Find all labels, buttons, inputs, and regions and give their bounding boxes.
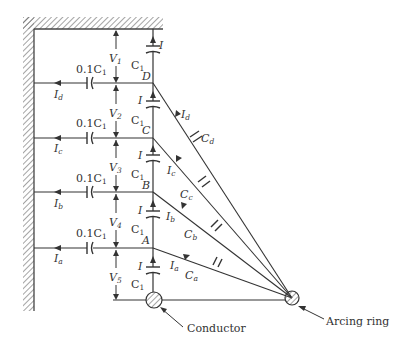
svg-text:Id: Id [53,88,63,102]
insulator-string-diagram: I I I I I C1 C1 C1 C1 C1 D C B A 0.1C1 0… [0,0,395,349]
svg-text:I: I [137,204,143,217]
shunt-cap-labels: 0.1C1 0.1C1 0.1C1 0.1C1 [76,63,107,241]
svg-text:0.1C1: 0.1C1 [76,117,107,131]
svg-text:Cb: Cb [184,228,197,242]
svg-text:I: I [137,149,143,162]
svg-text:V3: V3 [109,161,122,175]
svg-text:Ia: Ia [169,259,179,273]
node-B: B [141,179,150,192]
shunt-current-labels: Id Ic Ib Ia [53,88,63,266]
conductor-label: Conductor [187,322,246,335]
svg-text:Cd: Cd [201,132,214,146]
node-labels: D C B A [141,70,151,247]
svg-text:V2: V2 [109,107,122,121]
svg-text:0.1C1: 0.1C1 [76,63,107,77]
arcing-ring-label: Arcing ring [325,315,389,328]
svg-text:V4: V4 [109,216,122,230]
svg-text:I: I [137,260,143,273]
svg-text:I: I [137,94,143,107]
node-A: A [141,234,150,247]
svg-text:Ia: Ia [53,252,63,266]
svg-text:Ca: Ca [185,269,198,283]
svg-text:Ic: Ic [53,142,63,156]
node-C: C [142,124,151,137]
node-D: D [141,70,151,83]
svg-text:Ib: Ib [165,210,175,224]
arcing-ring-icon [285,291,299,305]
shunt-current-arrows [54,80,61,251]
svg-text:Cc: Cc [180,188,193,202]
svg-text:C1: C1 [131,278,144,292]
svg-text:V1: V1 [109,52,122,66]
svg-text:0.1C1: 0.1C1 [76,227,107,241]
svg-text:Id: Id [180,108,190,122]
svg-text:0.1C1: 0.1C1 [76,172,107,186]
conductor-icon [146,292,162,308]
svg-text:V5: V5 [109,271,122,285]
label-I: I [158,39,164,52]
svg-text:Ib: Ib [53,197,63,211]
ring-capacitor-labels: Cd Cc Cb Ca [180,132,214,283]
svg-text:Ic: Ic [166,164,176,178]
